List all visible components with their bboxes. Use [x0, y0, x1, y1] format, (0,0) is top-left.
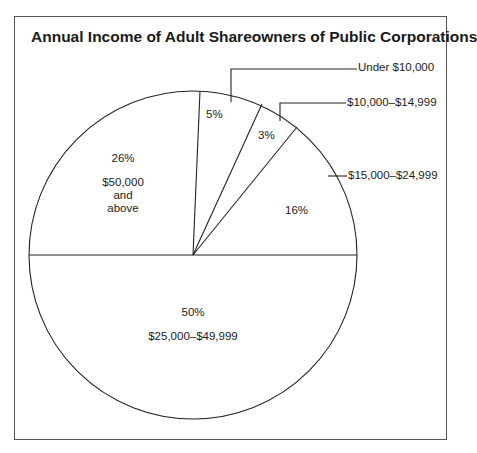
slice-divider-50k-under10k	[193, 91, 200, 255]
label-10000-14999: $10,000–$14,999	[347, 96, 437, 108]
label-50000-above-3: above	[98, 201, 148, 215]
label-50000-above-1: $50,000	[98, 175, 148, 189]
callout-line-10k	[280, 103, 346, 121]
label-15000-24999: $15,000–$24,999	[348, 169, 438, 181]
slice-divider-10k-15k	[193, 127, 297, 255]
pct-under-10000: 5%	[206, 107, 223, 121]
pct-10000-14999: 3%	[258, 128, 275, 142]
label-under-10000: Under $10,000	[358, 61, 434, 73]
pct-25000-49999: 50%	[176, 305, 210, 319]
callout-line-under10k	[231, 69, 357, 102]
slice-divider-under10k-10k	[193, 104, 262, 255]
label-50000-above-2: and	[98, 188, 148, 202]
label-25000-49999: $25,000–$49,999	[143, 329, 243, 343]
pct-50000-above: 26%	[108, 151, 138, 165]
pct-15000-24999: 16%	[285, 203, 308, 217]
